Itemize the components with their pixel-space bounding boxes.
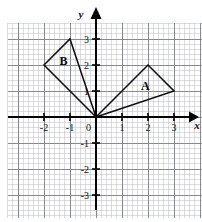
y-tick-label: -3 xyxy=(81,190,89,201)
x-tick-label: 3 xyxy=(172,122,177,133)
x-axis-label: x xyxy=(193,119,200,131)
shape-label-b: B xyxy=(59,54,67,68)
graph-canvas: -2-1123321-1-2-30 AB xy xyxy=(0,0,202,222)
coordinate-plane-figure: -2-1123321-1-2-30 AB xy xyxy=(0,0,202,222)
shapes-group xyxy=(44,39,174,117)
x-tick-label: 1 xyxy=(120,122,125,133)
x-tick-label: 2 xyxy=(146,122,151,133)
minor-gridlines xyxy=(8,23,202,218)
major-gridlines xyxy=(8,23,202,218)
y-tick-label: -1 xyxy=(81,138,89,149)
x-tick-label: -2 xyxy=(40,122,48,133)
y-tick-label: 3 xyxy=(84,34,89,45)
y-tick-label: 2 xyxy=(84,60,89,71)
origin-label: 0 xyxy=(86,122,91,133)
shape-label-a: A xyxy=(141,79,150,93)
y-tick-label: -2 xyxy=(81,164,89,175)
y-axis-label: y xyxy=(77,8,84,20)
x-tick-label: -1 xyxy=(66,122,74,133)
